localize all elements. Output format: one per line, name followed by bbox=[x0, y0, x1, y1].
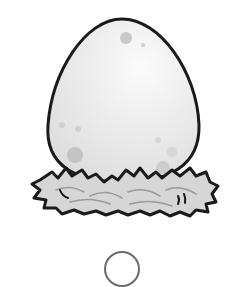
nest-icon bbox=[32, 168, 218, 216]
select-radio-button[interactable] bbox=[104, 251, 140, 287]
egg-icon bbox=[48, 19, 199, 182]
